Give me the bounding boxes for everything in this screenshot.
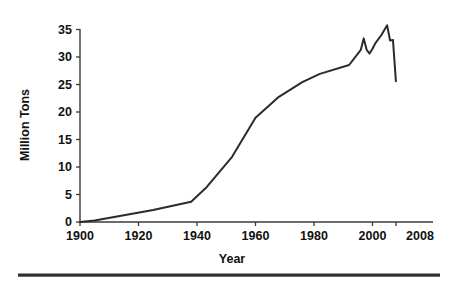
x-tick-label-1900: 1900 [66, 229, 94, 243]
x-tick-label-1920: 1920 [125, 229, 153, 243]
y-tick-label-10: 10 [58, 160, 72, 174]
y-tick-label-20: 20 [58, 105, 72, 119]
data-series-line [80, 25, 396, 222]
y-tick-label-35: 35 [58, 23, 72, 37]
y-tick-label-5: 5 [65, 188, 72, 202]
x-tick-label-2008: 2008 [406, 229, 434, 243]
x-tick-label-1940: 1940 [183, 229, 211, 243]
x-axis-title: Year [219, 252, 246, 266]
y-tick-label-30: 30 [58, 50, 72, 64]
y-axis-title: Million Tons [18, 89, 32, 161]
y-tick-label-25: 25 [58, 78, 72, 92]
x-tick-label-1960: 1960 [242, 229, 270, 243]
x-tick-label-1980: 1980 [300, 229, 328, 243]
y-tick-label-0: 0 [65, 215, 72, 229]
line-chart-svg: Million Tons 0 5 10 15 20 25 30 35 1900 … [0, 0, 459, 285]
chart-figure: Million Tons 0 5 10 15 20 25 30 35 1900 … [0, 0, 459, 285]
x-tick-label-2000: 2000 [359, 229, 387, 243]
y-tick-label-15: 15 [58, 133, 72, 147]
